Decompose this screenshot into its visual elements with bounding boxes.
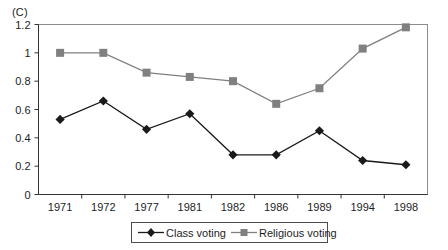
y-tick-label: 0 bbox=[24, 189, 30, 201]
y-tick-label: 1 bbox=[24, 47, 30, 59]
y-axis-ticks: 00.20.40.60.811.2 bbox=[15, 19, 38, 201]
legend-label-class-voting: Class voting bbox=[166, 227, 226, 239]
y-tick-label: 0.4 bbox=[15, 132, 30, 144]
data-point-square-marker bbox=[186, 73, 194, 81]
x-tick-label: 1986 bbox=[264, 201, 288, 213]
x-tick-label: 1994 bbox=[350, 201, 374, 213]
line-chart: 00.20.40.60.811.2 1971197219771981198219… bbox=[0, 0, 448, 250]
x-tick-label: 1998 bbox=[394, 201, 418, 213]
figure-panel-c: (C) 00.20.40.60.811.2 197119721977198119… bbox=[0, 0, 448, 250]
data-point-square-marker bbox=[359, 45, 367, 53]
square-marker-icon bbox=[241, 229, 248, 236]
legend-item-class-voting: Class voting bbox=[138, 227, 226, 239]
x-tick-label: 1972 bbox=[91, 201, 115, 213]
data-point-square-marker bbox=[315, 84, 323, 92]
chart-plot-area: 00.20.40.60.811.2 1971197219771981198219… bbox=[0, 0, 448, 250]
y-tick-label: 1.2 bbox=[15, 19, 30, 31]
x-axis-ticks: 197119721977198119821986198919941998 bbox=[48, 195, 418, 213]
x-tick-label: 1977 bbox=[134, 201, 158, 213]
data-point-square-marker bbox=[402, 23, 410, 31]
x-tick-label: 1989 bbox=[307, 201, 331, 213]
data-point-square-marker bbox=[272, 100, 280, 108]
plot-frame bbox=[39, 25, 428, 195]
data-point-square-marker bbox=[56, 49, 64, 57]
x-tick-label: 1982 bbox=[221, 201, 245, 213]
x-tick-label: 1971 bbox=[48, 201, 72, 213]
y-tick-label: 0.2 bbox=[15, 160, 30, 172]
data-point-square-marker bbox=[229, 77, 237, 85]
y-tick-label: 0.6 bbox=[15, 104, 30, 116]
chart-legend: Class voting Religious voting bbox=[132, 223, 337, 243]
x-tick-label: 1981 bbox=[178, 201, 202, 213]
data-point-square-marker bbox=[99, 49, 107, 57]
y-tick-label: 0.8 bbox=[15, 75, 30, 87]
legend-label-religious-voting: Religious voting bbox=[259, 227, 337, 239]
data-point-square-marker bbox=[143, 69, 151, 77]
